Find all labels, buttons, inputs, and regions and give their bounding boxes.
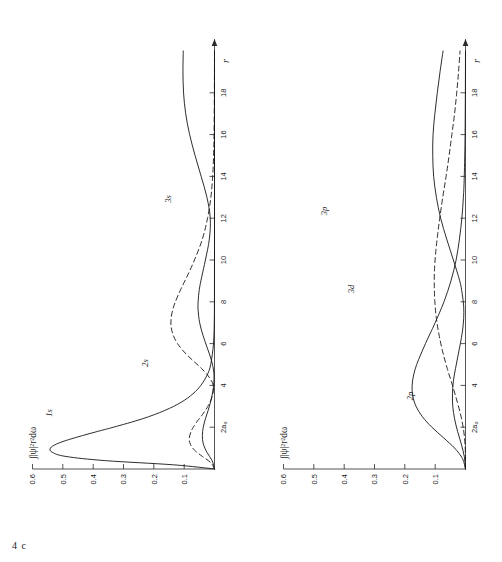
x-tick-label: 2a₀ [469,421,478,432]
x-tick-label: 8 [469,300,478,304]
x-tick-label: 14 [469,172,478,180]
curve-label-2p: 2p [404,392,414,401]
y-tick-labels: 0.1 0.2 0.3 0.4 0.5 0.6 [28,474,189,484]
figure-4c: 2a₀ 4 6 8 10 12 14 16 18 r [0,0,251,562]
x-tick-label: 18 [469,89,478,97]
curve-3s [182,51,214,469]
y-tick-labels: 0.1 0.2 0.3 0.4 0.5 0.6 [279,474,440,484]
y-tick-marks [32,464,184,469]
x-tick-label: 2a₀ [218,421,227,432]
y-tick-marks [283,464,435,469]
y-tick-label: 0.3 [119,474,128,484]
x-tick-marks [460,93,465,427]
figure-4c-rotated-plot: 2a₀ 4 6 8 10 12 14 16 18 r [18,31,233,531]
x-tick-label: 8 [218,300,227,304]
x-tick-label: 18 [218,89,227,97]
x-tick-label: 14 [218,172,227,180]
y-tick-label: 0.1 [180,474,189,484]
y-tick-label: 0.2 [400,474,409,484]
figure-tag-4c: 4 c [12,540,27,551]
curve-2p [412,51,465,469]
x-tick-label: 10 [469,256,478,264]
x-axis-arrow-head [211,39,217,46]
figure-4d-plotbox: 2a₀ 4 6 8 10 12 14 16 18 r [269,31,484,531]
x-tick-labels: 2a₀ 4 6 8 10 12 14 16 18 [469,89,478,433]
curve-3p [432,51,465,469]
x-tick-label: 12 [469,214,478,222]
figure-4c-svg: 2a₀ 4 6 8 10 12 14 16 18 r [18,31,233,531]
curve-label-3p: 3p [318,207,328,217]
y-tick-label: 0.5 [58,474,67,484]
x-tick-label: 12 [218,214,227,222]
curve-2s [170,51,214,469]
curve-group [49,51,214,469]
y-axis-title: ∫|ψ|²r²dω [27,427,38,460]
figure-4c-plotbox: 2a₀ 4 6 8 10 12 14 16 18 r [18,31,233,531]
y-tick-label: 0.4 [89,474,98,484]
curve-label-3s: 3s [162,195,172,204]
y-tick-label: 0.6 [28,474,37,484]
y-tick-label: 0.1 [431,474,440,484]
y-tick-label: 0.3 [370,474,379,484]
x-tick-label: 10 [218,256,227,264]
curve-label-2s: 2s [139,359,149,367]
x-axis-label: r [219,59,230,63]
curve-group [412,51,465,469]
curve-label-1s: 1s [43,409,53,417]
x-tick-label: 16 [218,130,227,138]
x-tick-label: 4 [469,383,478,387]
y-tick-label: 0.4 [340,474,349,484]
x-tick-label: 16 [469,130,478,138]
figure-4d-rotated-plot: 2a₀ 4 6 8 10 12 14 16 18 r [269,31,484,531]
x-axis-arrow-head [462,39,468,46]
x-tick-label: 6 [218,342,227,346]
y-axis-title: ∫|ψ|²r²dω [278,427,289,460]
y-tick-label: 0.6 [279,474,288,484]
x-axis-label: r [470,59,481,63]
y-tick-label: 0.5 [309,474,318,484]
figure-4d-svg: 2a₀ 4 6 8 10 12 14 16 18 r [269,31,484,531]
x-tick-labels: 2a₀ 4 6 8 10 12 14 16 18 [218,89,227,433]
curve-1s [49,51,214,469]
curve-label-3d: 3d [345,284,355,294]
x-tick-marks [209,93,214,427]
figure-page: 2a₀ 4 6 8 10 12 14 16 18 r [0,0,502,562]
x-tick-label: 6 [469,342,478,346]
curve-3d [434,51,465,469]
x-tick-label: 4 [218,383,227,387]
y-tick-label: 0.2 [149,474,158,484]
figure-4d: 2a₀ 4 6 8 10 12 14 16 18 r [251,0,502,562]
